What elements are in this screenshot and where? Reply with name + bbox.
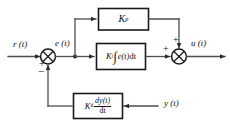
proportional-block-label: Kp (99, 9, 149, 31)
label-error-signal: e (t) (55, 39, 70, 48)
sign-output-junction-top-positive: + (173, 35, 179, 45)
derivative-fraction: dy(t)dt (94, 97, 111, 115)
pid-block-diagram: r (t) e (t) u (t) y (t) + − + + Kp Ki∫e(… (0, 0, 230, 129)
sign-error-junction-negative: − (38, 66, 44, 77)
derivative-numerator: dy(t) (94, 97, 111, 105)
derivative-block-label: Kddy(t)dt (74, 94, 123, 119)
integral-integrand: e(t) (118, 52, 130, 61)
derivative-denominator: dt (99, 107, 107, 115)
integral-sign-icon: ∫ (113, 53, 118, 61)
label-reference-signal: r (t) (13, 40, 27, 49)
label-control-output-signal: u (t) (191, 39, 206, 48)
proportional-gain-subscript: p (125, 16, 128, 22)
sign-output-junction-left-positive: + (163, 44, 169, 54)
derivative-gain-subscript: d (90, 103, 93, 108)
integral-block-label: Ki∫e(t)dt (97, 44, 146, 70)
label-measurement-signal: y (t) (164, 99, 179, 108)
integral-differential: dt (129, 52, 136, 61)
